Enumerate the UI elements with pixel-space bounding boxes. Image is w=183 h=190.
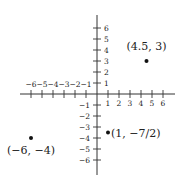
y-tick-label: 5	[104, 35, 109, 44]
data-point	[145, 59, 149, 63]
y-tick-label: 3	[104, 57, 109, 66]
x-tick-label: 6	[161, 99, 166, 108]
x-tick-label: −1	[80, 80, 91, 89]
x-tick-label: −4	[47, 80, 58, 89]
x-tick-label: −6	[25, 80, 36, 89]
x-tick-label: 1	[106, 99, 111, 108]
y-tick-label: 1	[104, 79, 109, 88]
y-tick-label: 2	[104, 68, 109, 77]
y-tick-label: 4	[104, 46, 109, 55]
y-tick-label: −1	[79, 101, 90, 110]
x-tick-label: −3	[58, 80, 69, 89]
data-point	[106, 131, 110, 135]
coordinate-plane: −6−5−4−3−2−1123456−6−5−4−3−2−1123456 (4.…	[0, 0, 183, 190]
y-tick-label: −5	[79, 145, 90, 154]
x-tick-label: 4	[139, 99, 144, 108]
x-tick-label: −5	[36, 80, 47, 89]
y-tick-label: −6	[79, 156, 90, 165]
data-point	[29, 136, 33, 140]
point-label: (4.5, 3)	[126, 40, 166, 53]
point-label: (1, −7/2)	[111, 127, 161, 140]
y-tick-label: −4	[79, 134, 90, 143]
y-tick-label: −3	[79, 123, 90, 132]
x-tick-label: −2	[69, 80, 80, 89]
x-tick-label: 5	[150, 99, 155, 108]
x-tick-label: 3	[128, 99, 133, 108]
y-tick-label: −2	[79, 112, 90, 121]
point-label: (−6, −4)	[7, 144, 55, 157]
x-tick-label: 2	[117, 99, 122, 108]
y-tick-label: 6	[104, 24, 109, 33]
